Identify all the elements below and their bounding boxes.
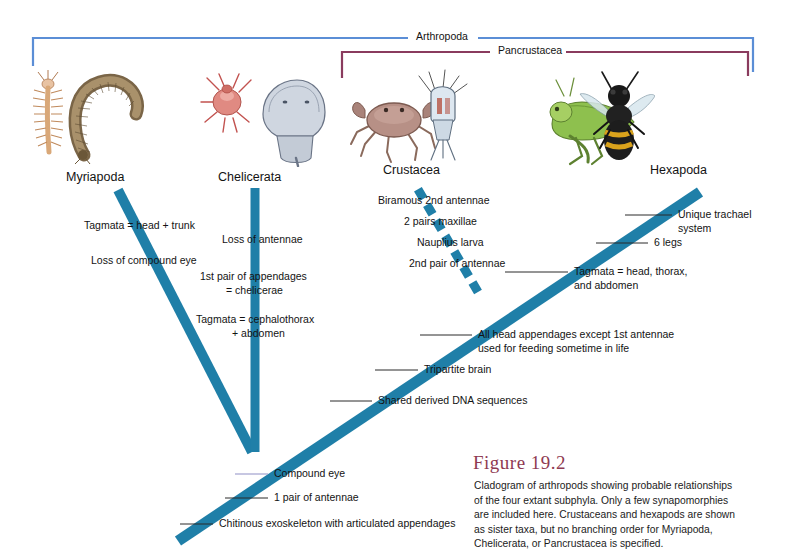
synapomorphy-and-abdomen: and abdomen	[574, 279, 638, 291]
taxon-label-chelicerata: Chelicerata	[218, 170, 281, 185]
synapomorphy-biramous-2nd-antennae: Biramous 2nd antennae	[378, 194, 490, 206]
synapomorphy-two-pairs-maxillae: 2 pairs maxillae	[404, 215, 477, 227]
synapomorphy-head-appendages-line2: used for feeding sometime in life	[478, 342, 629, 354]
synapomorphy-tripartite-brain: Tripartite brain	[424, 363, 491, 375]
synapomorphy-tagmata-head-thorax: Tagmata = head, thorax,	[574, 265, 688, 277]
synapomorphy-shared-dna: Shared derived DNA sequences	[378, 394, 527, 406]
synapomorphy-chitinous-exoskeleton: Chitinous exoskeleton with articulated a…	[219, 517, 455, 529]
synapomorphy-unique-tracheal-line1: Unique trachael	[678, 208, 752, 220]
clade-label-arthropoda: Arthropoda	[412, 30, 472, 42]
synapomorphy-one-pair-antennae: 1 pair of antennae	[274, 491, 359, 503]
taxon-label-hexapoda: Hexapoda	[650, 163, 707, 178]
figure-caption: Cladogram of arthropods showing probable…	[474, 479, 742, 551]
synapomorphy-compound-eye: Compound eye	[274, 467, 345, 479]
synapomorphy-loss-compound-eye: Loss of compound eye	[91, 254, 197, 266]
synapomorphy-tagmata-head-trunk: Tagmata = head + trunk	[84, 219, 195, 231]
synapomorphy-nauplius-larva: Nauplius larva	[417, 236, 484, 248]
taxon-label-crustacea: Crustacea	[383, 163, 440, 178]
synapomorphy-first-pair-appendages: 1st pair of appendages	[200, 270, 307, 282]
synapomorphy-unique-tracheal-line2: system	[678, 222, 711, 234]
arthropoda-bracket	[33, 38, 753, 72]
synapomorphy-six-legs: 6 legs	[654, 236, 682, 248]
synapomorphy-loss-antennae: Loss of antennae	[222, 233, 303, 245]
synapomorphy-tagmata-cephalothorax: Tagmata = cephalothorax	[196, 313, 314, 325]
synapomorphy-head-appendages-line1: All head appendages except 1st antennae	[478, 328, 674, 340]
taxon-label-myriapoda: Myriapoda	[66, 170, 124, 185]
synapomorphy-chelicerae: = chelicerae	[226, 284, 283, 296]
synapomorphy-second-pair-antennae: 2nd pair of antennae	[409, 257, 505, 269]
clade-label-pancrustacea: Pancrustacea	[494, 44, 566, 56]
cladogram-figure: Arthropoda Pancrustacea Myriapoda Chelic…	[0, 0, 787, 551]
figure-title: Figure 19.2	[473, 452, 566, 474]
synapomorphy-plus-abdomen: + abdomen	[232, 327, 285, 339]
